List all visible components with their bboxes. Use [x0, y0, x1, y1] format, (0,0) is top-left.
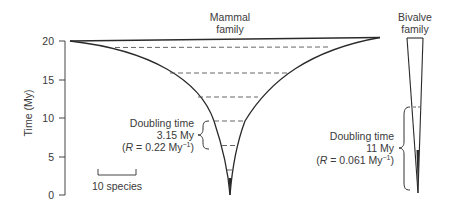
y-axis-label: Time (My) [22, 85, 34, 141]
bivalve-rate: (R = 0.061 My−1) [300, 154, 394, 166]
y-tick-15: 15 [38, 74, 54, 86]
scale-bar [98, 169, 136, 175]
mammal-doubling-annotation: Doubling time 3.15 My (R = 0.22 My−1) [110, 117, 194, 153]
mammal-title: Mammal family [200, 11, 260, 35]
mammal-brace [198, 121, 209, 149]
y-tick-5: 5 [38, 151, 54, 163]
bivalve-title: Bivalve family [390, 11, 440, 35]
bivalve-doubling-annotation: Doubling time 11 My (R = 0.061 My−1) [300, 130, 394, 166]
y-axis [59, 41, 65, 195]
bivalve-spindle [407, 38, 423, 193]
bivalve-doubling-label: Doubling time [300, 130, 394, 142]
mammal-doubling-label: Doubling time [110, 117, 194, 129]
mammal-title-line2: family [200, 23, 260, 35]
bivalve-brace [399, 107, 410, 190]
y-tick-0: 0 [38, 189, 54, 201]
y-tick-20: 20 [38, 35, 54, 47]
y-tick-10: 10 [38, 112, 54, 124]
bivalve-title-line1: Bivalve [390, 11, 440, 23]
scale-bar-label: 10 species [82, 180, 152, 192]
mammal-rate: (R = 0.22 My−1) [110, 141, 194, 153]
mammal-doubling-value: 3.15 My [110, 129, 194, 141]
mammal-title-line1: Mammal [200, 11, 260, 23]
bivalve-title-line2: family [390, 23, 440, 35]
bivalve-doubling-value: 11 My [300, 142, 394, 154]
